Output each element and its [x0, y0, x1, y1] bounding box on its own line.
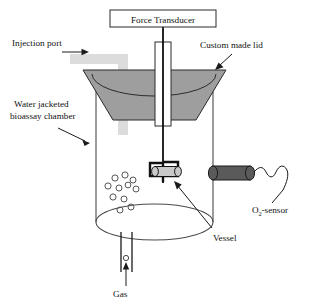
vessel-cylinder-cap-left: [152, 167, 159, 177]
gas-label: Gas: [113, 289, 128, 299]
o2-sensor-label-tail: -sensor: [262, 205, 289, 215]
o2-sensor-probe: [208, 166, 254, 180]
injection-port-label: Injection port: [12, 38, 62, 48]
bioassay-chamber-diagram: Force Transducer: [0, 0, 310, 305]
vessel-label: Vessel: [213, 233, 237, 243]
force-transducer-label: Force Transducer: [131, 15, 195, 25]
custom-made-lid-label: Custom made lid: [200, 40, 263, 50]
vessel-cylinder-cap-right: [175, 167, 182, 177]
o2-sensor-cap-right: [245, 166, 254, 180]
o2-sensor-cap-left: [208, 166, 217, 180]
chamber-label-line2: bioassay chamber: [10, 111, 76, 121]
diagram-canvas: Force Transducer: [0, 0, 310, 305]
force-transducer-box[interactable]: Force Transducer: [110, 10, 216, 27]
chamber-label-line1: Water jacketed: [14, 99, 69, 109]
